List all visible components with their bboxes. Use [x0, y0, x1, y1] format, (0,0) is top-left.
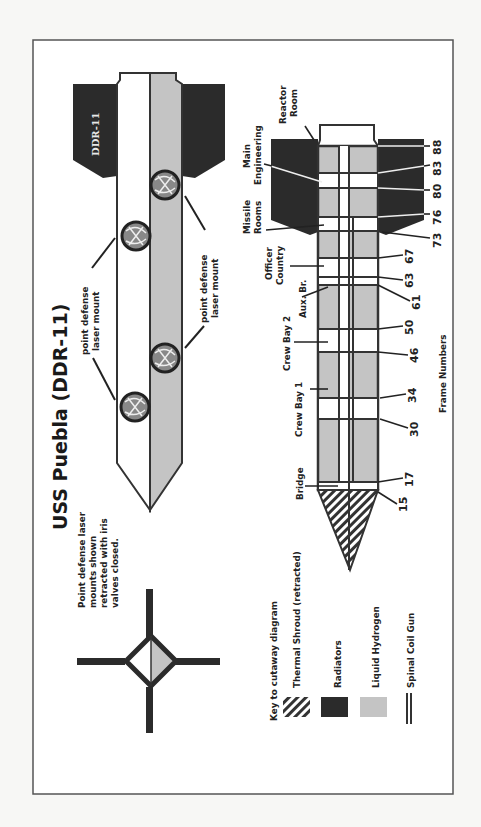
frame-number: 83	[431, 161, 444, 176]
note-line: retracted with iris	[99, 518, 109, 608]
compartment-label: Engineering	[253, 125, 263, 185]
ship-diagram: USS Puebla (DDR-11) DDR-11 Point defense…	[0, 0, 481, 827]
laser-mount-icon	[151, 171, 179, 199]
compartment-label: Crew Bay 2	[282, 316, 292, 371]
compartment-label: Reactor	[278, 85, 288, 124]
legend-label: Thermal Shroud (retracted)	[292, 551, 302, 688]
compartment-label: Room	[289, 89, 299, 117]
legend-label: Spinal Coil Gun	[406, 613, 416, 688]
mount-label: laser mount	[91, 292, 101, 352]
radiator-left	[271, 139, 318, 235]
laser-mount-icon	[121, 393, 149, 421]
legend-swatch-radiators	[321, 697, 348, 717]
compartment-label: Main	[242, 144, 252, 168]
mount-label: point defense	[80, 287, 90, 355]
legend-swatch-thermal-shroud	[283, 697, 310, 717]
note-line: valves closed.	[110, 538, 120, 608]
frame-number: 34	[406, 387, 419, 403]
compartment-label: Aux. Br.	[298, 280, 308, 318]
frame-number: 50	[403, 319, 416, 335]
frame-number: 15	[397, 497, 410, 512]
frame-number: 76	[431, 209, 444, 225]
note-line: Point defense laser	[77, 511, 87, 608]
reactor-room	[318, 125, 378, 146]
frame-number: 30	[408, 421, 421, 437]
hull-white-half	[117, 73, 150, 510]
compartment-label: Bridge	[295, 467, 305, 500]
frame-number: 88	[431, 140, 444, 155]
compartment-label: Officer	[264, 247, 274, 280]
mount-label: point defense	[199, 255, 209, 323]
hull-hydrogen-half	[150, 73, 182, 510]
laser-mount-icon	[122, 222, 150, 250]
diagram-title: USS Puebla (DDR-11)	[49, 304, 71, 530]
frame-number: 67	[403, 249, 416, 264]
frame-number: 46	[408, 347, 421, 363]
frame-numbers-label: Frame Numbers	[438, 334, 448, 413]
frame-number: 17	[403, 472, 416, 487]
mount-label: laser mount	[210, 259, 220, 319]
note-line: mounts shown	[88, 536, 98, 608]
compartment-label: Missile	[242, 200, 252, 234]
frame-number: 73	[431, 233, 444, 248]
compartment-label: Country	[275, 245, 285, 285]
frame-number: 63	[403, 273, 416, 288]
laser-mount-icon	[151, 344, 179, 372]
legend-label: Liquid Hydrogen	[371, 606, 381, 688]
legend-swatch-liquid-hydrogen	[360, 697, 387, 717]
hull-marking: DDR-11	[90, 112, 101, 156]
legend-label: Radiators	[333, 640, 343, 688]
frame-number: 61	[410, 295, 423, 310]
compartment-label: Rooms	[253, 201, 263, 234]
legend-title: Key to cutaway diagram	[269, 601, 279, 721]
compartment-label: Crew Bay 1	[294, 382, 304, 437]
radiator-right	[378, 139, 424, 235]
frame-number: 80	[431, 183, 444, 199]
